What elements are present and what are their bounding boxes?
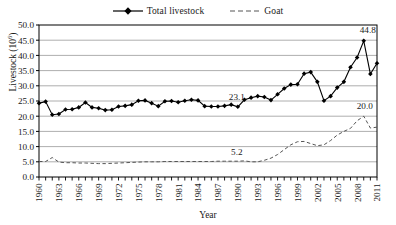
series-goat [39, 116, 377, 163]
data-label-23-1: 23.1 [229, 92, 245, 102]
x-tick-label: 1996 [273, 183, 283, 202]
x-tick-label: 1978 [154, 183, 164, 202]
data-label-44-8: 44.8 [360, 25, 376, 35]
x-tick-label: 1984 [193, 183, 203, 202]
data-label-20-0: 20.0 [357, 101, 373, 111]
x-tick-label: 1963 [54, 183, 64, 202]
chart-figure: Total livestock Goat Livestock (106) Yea… [0, 0, 396, 225]
x-tick-label: 1987 [213, 183, 223, 202]
x-tick-label: 1969 [94, 183, 104, 202]
x-tick-label: 2005 [333, 183, 343, 202]
y-axis-ticks: 0.05.010.015.020.025.030.035.040.045.050… [18, 20, 39, 182]
x-tick-label: 2002 [313, 183, 323, 202]
x-tick-label: 1966 [74, 183, 84, 202]
x-tick-label: 1999 [293, 183, 303, 202]
y-tick-label: 25.0 [18, 96, 34, 106]
y-tick-label: 0.0 [23, 172, 35, 182]
y-tick-label: 35.0 [18, 66, 34, 76]
series-total-livestock [37, 39, 380, 117]
x-tick-label: 1972 [114, 183, 124, 202]
chart-plot-area: 0.05.010.015.020.025.030.035.040.045.050… [0, 0, 396, 225]
y-tick-label: 50.0 [18, 20, 34, 30]
x-tick-label: 1993 [253, 183, 263, 202]
y-tick-label: 45.0 [18, 36, 34, 46]
x-tick-label: 1990 [233, 183, 243, 202]
x-tick-label: 1981 [174, 183, 184, 202]
data-annotations: 23.144.85.220.0 [229, 25, 376, 157]
y-tick-label: 15.0 [18, 127, 34, 137]
y-tick-label: 10.0 [18, 142, 34, 152]
x-axis-ticks: 1960196319661969197219751978198119841987… [34, 177, 382, 202]
x-tick-label: 1960 [34, 183, 44, 202]
x-tick-label: 2008 [353, 183, 363, 202]
y-tick-label: 30.0 [18, 81, 34, 91]
x-tick-label: 2011 [372, 183, 382, 201]
x-tick-label: 1975 [134, 183, 144, 202]
y-tick-label: 5.0 [23, 157, 35, 167]
data-label-5-2: 5.2 [231, 147, 243, 157]
y-tick-label: 20.0 [18, 112, 34, 122]
y-tick-label: 40.0 [18, 51, 34, 61]
